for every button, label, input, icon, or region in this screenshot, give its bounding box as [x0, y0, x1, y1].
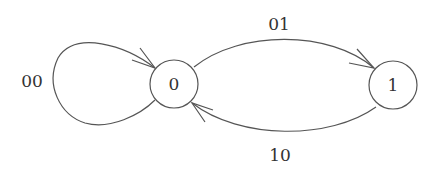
state-0-label: 0	[169, 74, 180, 94]
transition-00	[53, 43, 155, 125]
label-01: 01	[268, 14, 290, 34]
label-10: 10	[269, 145, 291, 165]
transition-10	[192, 103, 376, 131]
state-diagram: 0 1 00 01 10	[0, 0, 439, 172]
label-00: 00	[21, 71, 43, 91]
transition-01	[194, 39, 374, 68]
state-1-label: 1	[388, 75, 399, 95]
